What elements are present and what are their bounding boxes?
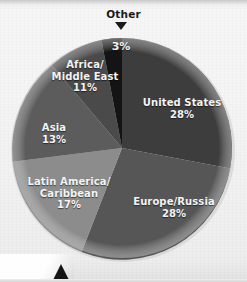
pie-chart: Other 3% United States 28% Europe/Russia… xyxy=(0,0,247,282)
slice-label-other: Other xyxy=(0,8,247,20)
slice-value-other: 3% xyxy=(103,40,139,53)
callout-arrow-down-icon xyxy=(115,22,127,30)
pie-rim-highlight xyxy=(12,38,232,258)
pie-chart-page: Other 3% United States 28% Europe/Russia… xyxy=(0,0,247,282)
